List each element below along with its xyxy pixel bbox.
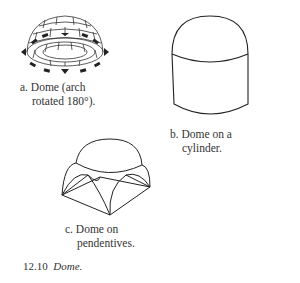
- caption-c: c. Dome on pendentives.: [65, 222, 135, 250]
- caption-b: b. Dome on a cylinder.: [170, 127, 232, 155]
- figure-caption: 12.10 Dome.: [23, 260, 82, 272]
- dome-cylinder-illustration: [168, 14, 253, 120]
- pendentive-dome-illustration: [58, 135, 158, 217]
- brick-dome-illustration: [15, 10, 115, 75]
- caption-a: a. Dome (arch rotated 180°).: [20, 80, 95, 108]
